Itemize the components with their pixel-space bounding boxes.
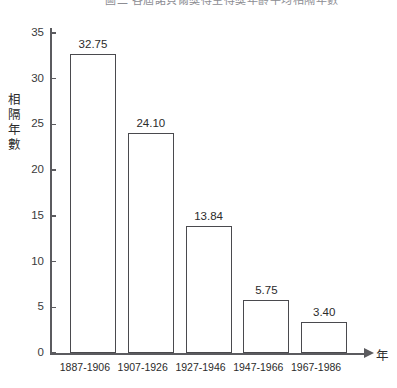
y-tick-label-text: 5 <box>22 301 44 313</box>
y-tick-label-text: 30 <box>22 73 44 85</box>
y-tick-mark <box>50 32 56 33</box>
category-label: 1967-1986 <box>281 361 351 373</box>
y-axis-line <box>50 28 52 354</box>
y-tick-label: 35 <box>18 27 44 39</box>
y-tick-mark <box>50 261 56 262</box>
x-tick-mark <box>50 347 51 354</box>
y-tick-label: 30 <box>18 73 44 85</box>
bar <box>128 133 174 353</box>
y-tick-label: 25 <box>18 118 44 130</box>
y-tick-label: 0 <box>18 347 44 359</box>
bar <box>186 226 232 353</box>
y-tick-label-text: 10 <box>22 256 44 268</box>
y-tick-mark <box>50 169 56 170</box>
bar-value-label: 3.40 <box>289 306 359 318</box>
y-axis-title-char-1: 相 <box>6 92 22 107</box>
y-tick-mark <box>50 78 56 79</box>
bar-value-label: 32.75 <box>58 38 128 50</box>
y-tick-label-text: 35 <box>22 27 44 39</box>
y-tick-label-text: 0 <box>22 347 44 359</box>
y-tick-mark <box>50 215 56 216</box>
y-tick-mark <box>50 307 56 308</box>
y-tick-label: 10 <box>18 256 44 268</box>
y-tick-label-text: 25 <box>22 118 44 130</box>
bar <box>243 300 289 353</box>
x-axis-title: 年 <box>376 345 389 364</box>
x-axis-arrow-icon <box>364 348 374 358</box>
y-tick-label: 5 <box>18 301 44 313</box>
bar-chart: 相 隔 年 數 年 05101520253035 32.7524.1013.84… <box>0 0 397 388</box>
y-axis-title-char-4: 數 <box>6 137 22 152</box>
bar <box>70 54 116 353</box>
y-tick-mark <box>50 124 56 125</box>
bar-value-label: 5.75 <box>231 284 301 296</box>
bar-value-label: 24.10 <box>116 117 186 129</box>
y-tick-label: 15 <box>18 210 44 222</box>
bar <box>301 322 347 353</box>
y-tick-label-text: 15 <box>22 210 44 222</box>
y-tick-label-text: 20 <box>22 164 44 176</box>
x-axis-line <box>50 353 368 355</box>
y-tick-label: 20 <box>18 164 44 176</box>
bar-value-label: 13.84 <box>174 210 244 222</box>
